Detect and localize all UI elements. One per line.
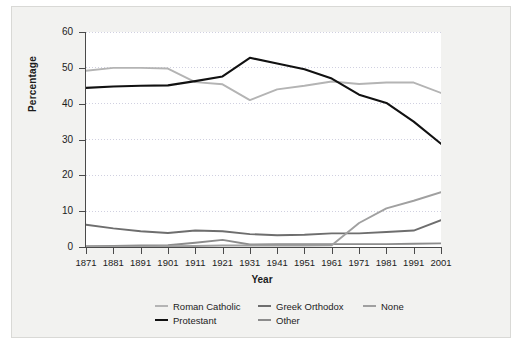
series-line-roman-catholic	[86, 68, 441, 100]
series-line-none	[86, 192, 441, 246]
series-lines	[86, 58, 441, 247]
legend-swatch-greek-orthodox	[258, 305, 271, 307]
x-axis-title: Year	[0, 274, 524, 285]
y-tick-label: 50	[33, 63, 73, 73]
x-tick-mark	[359, 248, 360, 254]
legend-swatch-other	[258, 319, 271, 321]
chart-legend: Roman Catholic Greek Orthodox None Prote…	[155, 299, 455, 327]
y-tick-label: 60	[33, 27, 73, 37]
legend-label-protestant: Protestant	[173, 315, 216, 326]
legend-item-greek-orthodox[interactable]: Greek Orthodox	[258, 301, 363, 312]
x-tick-mark	[250, 248, 251, 254]
x-tick-mark	[414, 248, 415, 254]
legend-label-greek-orthodox: Greek Orthodox	[276, 301, 344, 312]
series-line-protestant	[86, 58, 441, 144]
series-line-greek-orthodox	[86, 220, 441, 235]
x-tick-mark	[332, 248, 333, 254]
legend-swatch-roman-catholic	[155, 305, 168, 307]
y-tick-mark	[79, 140, 85, 141]
legend-label-other: Other	[276, 315, 300, 326]
y-tick-label: 10	[33, 206, 73, 216]
legend-row-1: Roman Catholic Greek Orthodox None	[155, 299, 455, 313]
legend-swatch-none	[363, 305, 376, 307]
y-tick-label: 40	[33, 99, 73, 109]
y-tick-label: 30	[33, 135, 73, 145]
x-tick-mark	[304, 248, 305, 254]
y-tick-label: 20	[33, 170, 73, 180]
x-tick-mark	[86, 248, 87, 254]
y-tick-mark	[79, 32, 85, 33]
legend-swatch-protestant	[155, 319, 168, 321]
x-tick-mark	[277, 248, 278, 254]
legend-row-2: Protestant Other	[155, 313, 455, 327]
plot-svg	[86, 32, 441, 247]
legend-item-other[interactable]: Other	[258, 315, 363, 326]
chart-figure: 6050403020100 18711881189119011911192119…	[0, 0, 524, 356]
x-tick-mark	[141, 248, 142, 254]
x-axis-line	[85, 247, 442, 248]
y-tick-mark	[79, 175, 85, 176]
x-tick-mark	[113, 248, 114, 254]
legend-item-none[interactable]: None	[363, 301, 433, 312]
legend-item-roman-catholic[interactable]: Roman Catholic	[155, 301, 258, 312]
y-tick-label: 0	[33, 242, 73, 252]
y-tick-mark	[79, 104, 85, 105]
y-axis-line	[85, 32, 86, 248]
legend-label-roman-catholic: Roman Catholic	[173, 301, 241, 312]
y-axis-title: Percentage	[27, 56, 38, 112]
legend-item-protestant[interactable]: Protestant	[155, 315, 258, 326]
y-tick-mark	[79, 247, 85, 248]
gridlines	[86, 32, 441, 247]
plot-area	[86, 32, 441, 247]
y-tick-mark	[79, 211, 85, 212]
x-tick-mark	[386, 248, 387, 254]
x-tick-mark	[223, 248, 224, 254]
x-tick-mark	[441, 248, 442, 254]
y-tick-mark	[79, 68, 85, 69]
x-tick-label: 2001	[421, 257, 461, 268]
legend-label-none: None	[381, 301, 404, 312]
x-tick-mark	[168, 248, 169, 254]
x-tick-mark	[195, 248, 196, 254]
